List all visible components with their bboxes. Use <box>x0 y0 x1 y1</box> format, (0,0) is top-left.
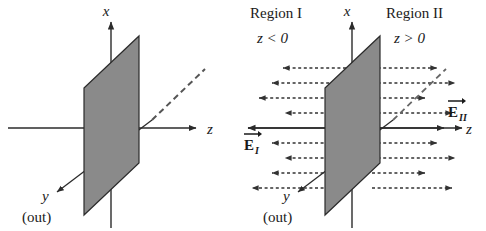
right-z-axis-label: z <box>465 121 472 137</box>
charged-plane <box>84 36 139 215</box>
right-y-axis-label: y <box>281 188 290 204</box>
left-panel-group: x z y (out) <box>8 3 213 228</box>
field-two-label: E <box>448 104 458 120</box>
field-one-label: E <box>244 137 254 153</box>
physics-figure: x z y (out) <box>0 0 486 231</box>
hidden-y-axis-dashed <box>152 69 205 120</box>
region-two-condition: z > 0 <box>393 30 425 46</box>
field-two-label-group: E II <box>448 98 468 123</box>
left-x-axis-label: x <box>102 3 110 19</box>
right-y-axis-out-note: (out) <box>263 209 292 226</box>
field-two-subscript: II <box>458 112 468 123</box>
field-one-subscript: I <box>254 145 260 156</box>
right-panel-group: Region I z < 0 Region II z > 0 x z y (ou… <box>244 3 472 228</box>
left-y-axis-label: y <box>40 188 49 204</box>
region-one-label: Region I <box>250 5 302 21</box>
charged-plane <box>325 36 380 215</box>
region-two-label: Region II <box>386 5 443 21</box>
field-one-label-group: E I <box>244 131 262 156</box>
left-y-axis-out-note: (out) <box>22 209 51 226</box>
right-x-axis-label: x <box>343 3 351 19</box>
e-two-vector-arrowhead <box>462 98 466 104</box>
region-one-condition: z < 0 <box>256 30 288 46</box>
e-one-vector-arrowhead <box>258 131 262 137</box>
left-diagram: x z y (out) <box>0 0 486 231</box>
left-z-axis-label: z <box>206 121 213 137</box>
